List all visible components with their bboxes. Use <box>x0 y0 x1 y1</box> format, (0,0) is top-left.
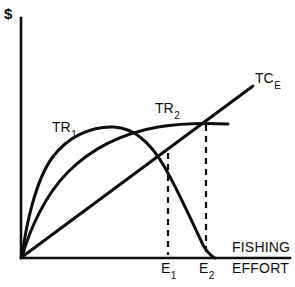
tick-label-e1: E1 <box>161 261 176 279</box>
tick-label-e1-subscript: 1 <box>171 270 177 281</box>
tick-label-e2: E2 <box>199 261 214 279</box>
curve-label-tc-subscript: E <box>274 80 281 91</box>
x-axis-label-effort: EFFORT <box>232 261 289 275</box>
curve-label-tr1-base: TR <box>52 119 71 135</box>
curve-label-tr2: TR2 <box>155 101 179 119</box>
y-axis-label-dollar: $ <box>4 6 12 21</box>
tick-label-e2-subscript: 2 <box>209 270 215 281</box>
curve-label-tr1-subscript: 1 <box>71 129 77 140</box>
curve-label-tc-effort: TCE <box>255 71 280 89</box>
curve-label-tr2-subscript: 2 <box>174 110 180 121</box>
x-axis-label-fishing: FISHING <box>232 240 290 254</box>
total-cost-effort-line <box>22 86 253 257</box>
tick-label-e2-base: E <box>199 260 208 276</box>
tick-label-e1-base: E <box>161 260 170 276</box>
curve-label-tr2-base: TR <box>155 100 174 116</box>
fisheries-bioeconomic-chart: $ TR1 TR2 TCE E1 E2 FISHING EFFORT <box>0 0 295 287</box>
total-revenue-curve-2 <box>22 123 228 257</box>
curve-label-tr1: TR1 <box>52 120 76 138</box>
curve-label-tc-base: TC <box>255 70 274 86</box>
